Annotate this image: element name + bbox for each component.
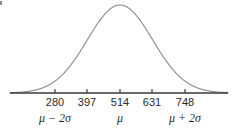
x-axis-tick-label: 631 bbox=[143, 97, 161, 108]
bell-curve-path bbox=[10, 5, 228, 93]
x-axis-tick-label: 514 bbox=[111, 97, 129, 108]
normal-distribution-figure: 280397514631748 μ − 2σμμ + 2σ bbox=[0, 0, 236, 130]
sigma-annotation-label: μ − 2σ bbox=[39, 112, 71, 124]
x-axis-tick-label: 280 bbox=[46, 97, 64, 108]
x-axis-tick-label: 748 bbox=[176, 97, 194, 108]
x-axis-tick-label: 397 bbox=[78, 97, 96, 108]
sigma-annotation-label: μ bbox=[117, 112, 123, 124]
sigma-annotation-label: μ + 2σ bbox=[169, 112, 201, 124]
